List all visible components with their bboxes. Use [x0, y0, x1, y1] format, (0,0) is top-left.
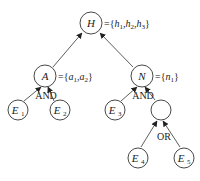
svg-text:E: E: [108, 104, 116, 116]
svg-text:E: E: [131, 152, 139, 164]
svg-text:E: E: [177, 152, 185, 164]
edge-a-h: [53, 33, 82, 67]
svg-text:2: 2: [63, 110, 67, 118]
node-e3: E 3: [105, 100, 125, 120]
svg-text:E: E: [53, 104, 61, 116]
svg-text:4: 4: [141, 158, 145, 166]
node-h-label: H: [86, 17, 96, 29]
svg-text:3: 3: [118, 110, 122, 118]
node-n: N ={n1}: [131, 65, 179, 87]
node-a: A ={a1,a2}: [34, 65, 93, 87]
gate-and-a: AND: [35, 90, 57, 101]
gate-or-blank: OR: [157, 131, 171, 142]
node-e1: E 1: [8, 100, 28, 120]
edge-n-h: [100, 33, 133, 67]
svg-text:1: 1: [21, 110, 25, 118]
and-or-tree-diagram: H ={h1,h2,h3} A ={a1,a2} N ={n1} AND AND…: [0, 0, 200, 181]
gate-and-n: AND: [132, 90, 154, 101]
node-blank: [151, 100, 171, 120]
node-h: H ={h1,h2,h3}: [80, 12, 150, 34]
node-e4: E 4: [128, 148, 148, 168]
node-e2: E 2: [50, 100, 70, 120]
node-a-set: ={a1,a2}: [58, 71, 93, 84]
edge-e4-blank: [141, 121, 157, 147]
node-e5: E 5: [174, 148, 194, 168]
node-n-label: N: [137, 70, 146, 82]
node-n-set: ={n1}: [155, 71, 179, 84]
svg-text:E: E: [11, 104, 19, 116]
svg-text:5: 5: [187, 158, 191, 166]
node-a-label: A: [41, 70, 49, 82]
node-h-set: ={h1,h2,h3}: [104, 18, 150, 31]
